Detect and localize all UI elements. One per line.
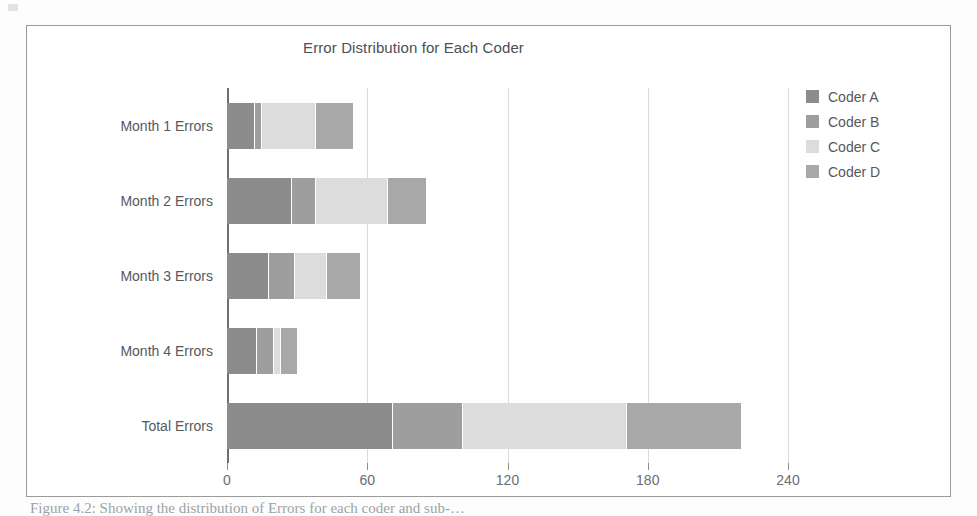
legend-swatch-icon — [806, 165, 819, 178]
legend-swatch-icon — [806, 115, 819, 128]
legend-label: Coder A — [828, 89, 879, 105]
bar-segment-coder-c — [463, 403, 627, 449]
chart-title: Error Distribution for Each Coder — [27, 39, 950, 56]
bar-segment-coder-c — [295, 253, 328, 299]
bar-segment-coder-c — [316, 178, 388, 224]
stacked-bar-chart: Error Distribution for Each Coder 060120… — [27, 26, 950, 496]
x-tick-label: 180 — [636, 472, 659, 488]
legend-item-coder-d: Coder D — [806, 159, 924, 184]
bar-segment-coder-c — [262, 103, 316, 149]
x-tick-label: 240 — [776, 472, 799, 488]
legend-item-coder-a: Coder A — [806, 84, 924, 109]
tick-mark-240 — [788, 463, 789, 470]
tick-mark-180 — [648, 463, 649, 470]
x-tick-label: 60 — [359, 472, 375, 488]
stacked-bar — [227, 103, 353, 149]
scanned-page: Error Distribution for Each Coder 060120… — [0, 0, 977, 516]
bar-segment-coder-d — [281, 328, 297, 374]
bar-segment-coder-b — [393, 403, 463, 449]
bar-segment-coder-d — [327, 253, 360, 299]
scan-artifact-speck — [8, 4, 18, 11]
stacked-bar — [227, 178, 426, 224]
chart-legend: Coder ACoder BCoder CCoder D — [806, 84, 924, 184]
tick-mark-120 — [508, 463, 509, 470]
bar-row: Month 1 Errors — [227, 88, 788, 163]
x-tick-label: 0 — [223, 472, 231, 488]
legend-swatch-icon — [806, 90, 819, 103]
bar-row: Total Errors — [227, 388, 788, 463]
bar-segment-coder-b — [269, 253, 295, 299]
tick-mark-60 — [367, 463, 368, 470]
bar-segment-coder-b — [292, 178, 315, 224]
legend-item-coder-c: Coder C — [806, 134, 924, 159]
stacked-bar — [227, 253, 360, 299]
bar-segment-coder-a — [227, 178, 292, 224]
figure-caption: Figure 4.2: Showing the distribution of … — [30, 500, 930, 516]
bar-row: Month 4 Errors — [227, 313, 788, 388]
bar-segment-coder-b — [257, 328, 273, 374]
gridline-240 — [788, 88, 789, 463]
bar-segment-coder-a — [227, 103, 255, 149]
legend-swatch-icon — [806, 140, 819, 153]
plot-area: 060120180240 Month 1 ErrorsMonth 2 Error… — [227, 88, 788, 463]
bar-segment-coder-d — [627, 403, 742, 449]
legend-label: Coder C — [828, 139, 880, 155]
tick-mark-0 — [227, 463, 228, 470]
category-label: Total Errors — [141, 418, 213, 434]
legend-label: Coder B — [828, 114, 879, 130]
bar-row: Month 3 Errors — [227, 238, 788, 313]
bar-segment-coder-c — [274, 328, 281, 374]
bar-segment-coder-b — [255, 103, 262, 149]
bar-segment-coder-d — [388, 178, 425, 224]
x-tick-label: 120 — [496, 472, 519, 488]
bar-segment-coder-a — [227, 403, 393, 449]
legend-label: Coder D — [828, 164, 880, 180]
stacked-bar — [227, 403, 741, 449]
bar-segment-coder-d — [316, 103, 353, 149]
category-label: Month 4 Errors — [120, 343, 213, 359]
category-label: Month 2 Errors — [120, 193, 213, 209]
category-label: Month 3 Errors — [120, 268, 213, 284]
bar-segment-coder-a — [227, 328, 257, 374]
figure-frame: Error Distribution for Each Coder 060120… — [26, 25, 951, 497]
category-label: Month 1 Errors — [120, 118, 213, 134]
stacked-bar — [227, 328, 297, 374]
legend-item-coder-b: Coder B — [806, 109, 924, 134]
bar-row: Month 2 Errors — [227, 163, 788, 238]
bar-segment-coder-a — [227, 253, 269, 299]
